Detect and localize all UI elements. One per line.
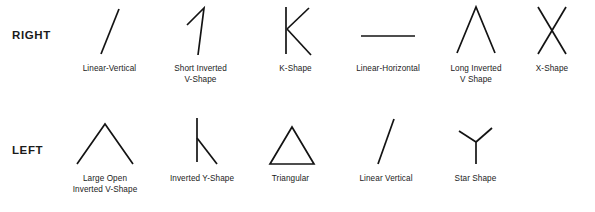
glyph-x-shape-icon — [512, 0, 592, 58]
shape-cell-x-shape: X-Shape — [512, 0, 592, 106]
shape-category-figure: RIGHT Linear-Vertical Short Inverted V-S… — [0, 0, 595, 212]
shape-caption: X-Shape — [512, 64, 592, 75]
shape-cell-k-shape: K-Shape — [248, 0, 343, 106]
row-left: LEFT Large Open Inverted V-Shape Inverte… — [0, 106, 595, 212]
shape-cell-linear-vertical-left: Linear Vertical — [336, 106, 436, 212]
shape-caption: Inverted Y-Shape — [152, 174, 252, 185]
glyph-triangle-icon — [243, 106, 338, 164]
shape-caption: Star Shape — [428, 174, 523, 185]
shape-cell-inverted-y-shape: Inverted Y-Shape — [152, 106, 252, 212]
shape-caption: K-Shape — [248, 64, 343, 75]
glyph-slanted-line-icon — [336, 106, 436, 164]
shape-cell-triangular: Triangular — [243, 106, 338, 212]
shape-caption: Triangular — [243, 174, 338, 185]
shape-cell-star-shape: Star Shape — [428, 106, 523, 212]
glyph-slanted-line-icon — [57, 0, 162, 58]
shape-cell-linear-vertical: Linear-Vertical — [57, 0, 162, 106]
shape-caption: Long Inverted V Shape — [426, 64, 526, 85]
glyph-inverted-y-shape-icon — [152, 106, 252, 164]
glyph-large-open-inverted-v-icon — [50, 106, 160, 164]
glyph-long-inverted-v-icon — [426, 0, 526, 58]
row-label-right: RIGHT — [12, 29, 51, 41]
shape-caption: Large Open Inverted V-Shape — [50, 174, 160, 195]
shape-cell-long-inverted-v: Long Inverted V Shape — [426, 0, 526, 106]
shape-caption: Linear Vertical — [336, 174, 436, 185]
glyph-k-shape-icon — [248, 0, 343, 58]
shape-cell-short-inverted-v: Short Inverted V-Shape — [148, 0, 253, 106]
shape-caption: Linear-Vertical — [57, 64, 162, 75]
shape-cell-large-open-inverted-v: Large Open Inverted V-Shape — [50, 106, 160, 212]
shape-caption: Short Inverted V-Shape — [148, 64, 253, 85]
glyph-short-inverted-v-icon — [148, 0, 253, 58]
row-label-left: LEFT — [12, 144, 43, 156]
row-right: RIGHT Linear-Vertical Short Inverted V-S… — [0, 0, 595, 106]
glyph-star-shape-icon — [428, 106, 523, 164]
